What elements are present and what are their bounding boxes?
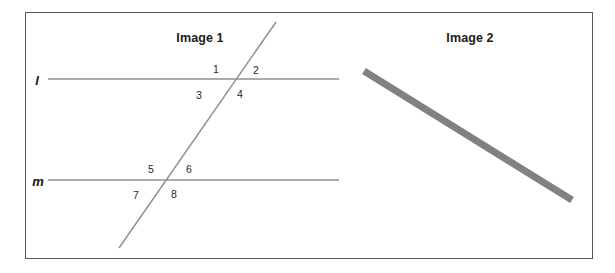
geometry-figure: Image 1 Image 2 l m 1 2 3 4 5 6 7 8 bbox=[0, 0, 615, 273]
angle-label-7: 7 bbox=[133, 190, 139, 201]
angle-label-2: 2 bbox=[253, 65, 259, 76]
panel-title-image-1: Image 1 bbox=[176, 31, 223, 45]
angle-label-5: 5 bbox=[148, 164, 154, 175]
line-label-l: l bbox=[35, 74, 39, 87]
figure-frame bbox=[25, 12, 593, 259]
angle-label-6: 6 bbox=[186, 164, 192, 175]
angle-label-3: 3 bbox=[196, 90, 202, 101]
line-label-m: m bbox=[32, 175, 44, 188]
angle-label-4: 4 bbox=[237, 89, 243, 100]
angle-label-1: 1 bbox=[213, 64, 219, 75]
angle-label-8: 8 bbox=[171, 189, 177, 200]
panel-title-image-2: Image 2 bbox=[446, 31, 493, 45]
